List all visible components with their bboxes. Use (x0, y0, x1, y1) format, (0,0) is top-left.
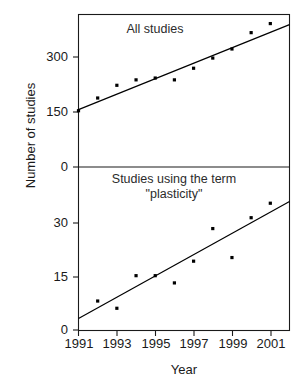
trendline-all-studies (79, 25, 290, 110)
data-point (192, 67, 195, 70)
data-point (134, 78, 137, 81)
data-point (250, 31, 253, 34)
data-point (211, 227, 214, 230)
data-point (211, 56, 214, 59)
data-point (96, 299, 99, 302)
data-point (115, 84, 118, 87)
trendline-plasticity-studies (79, 201, 290, 318)
data-point (269, 22, 272, 25)
chart-figure: Number of studies Year All studies Studi… (0, 0, 303, 387)
plot-frame (79, 15, 290, 331)
data-point (134, 274, 137, 277)
plot-canvas (0, 0, 303, 387)
data-point (192, 260, 195, 263)
data-point (173, 281, 176, 284)
data-point (269, 202, 272, 205)
data-point (250, 216, 253, 219)
ytick-marks-bottom (73, 223, 79, 330)
data-point (230, 256, 233, 259)
data-point (115, 307, 118, 310)
data-point (96, 96, 99, 99)
data-point (173, 78, 176, 81)
xtick-marks (79, 331, 272, 337)
